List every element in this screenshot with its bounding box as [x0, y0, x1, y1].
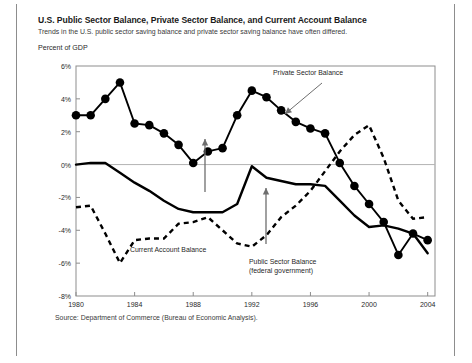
data-point-marker: [189, 159, 198, 168]
x-axis-tick-label: 2000: [361, 301, 377, 308]
data-point-marker: [174, 141, 183, 150]
data-point-marker: [394, 251, 403, 260]
annotation-public-sector-line2: (federal government): [249, 266, 316, 275]
data-point-marker: [335, 159, 344, 168]
private-sector-arrow: [285, 83, 322, 114]
source-note: Source: Department of Commerce (Bureau o…: [55, 314, 258, 321]
y-axis-tick-label: 4%: [61, 95, 71, 102]
annotation-public-sector-line1: Public Sector Balance: [249, 257, 316, 266]
y-axis-tick-label: -2%: [59, 194, 71, 201]
public-sector-arrow-head: [263, 188, 269, 195]
data-point-marker: [423, 236, 432, 245]
data-point-marker: [248, 86, 257, 95]
data-point-marker: [365, 200, 374, 209]
x-axis-tick-label: 1984: [127, 301, 143, 308]
series-solid-line: [76, 163, 428, 253]
y-axis-tick-label: 6%: [61, 63, 71, 70]
y-axis-tick-label: 0%: [61, 161, 71, 168]
annotation-public-sector: Public Sector Balance(federal government…: [249, 257, 316, 275]
data-point-marker: [130, 119, 139, 128]
data-point-marker: [350, 182, 359, 191]
data-point-marker: [306, 124, 315, 133]
y-axis-tick-label: -4%: [59, 227, 71, 234]
annotation-private-sector: Private Sector Balance: [273, 68, 343, 77]
annotation-current-account: Current Account Balance: [130, 245, 206, 254]
current-account-arrow-head: [202, 139, 208, 146]
data-point-marker: [116, 78, 125, 87]
data-point-marker: [233, 111, 242, 120]
chart-title: U.S. Public Sector Balance, Private Sect…: [38, 15, 367, 25]
data-point-marker: [277, 106, 286, 115]
data-point-marker: [101, 95, 110, 104]
data-point-marker: [262, 93, 271, 102]
series-dashed-line: [76, 125, 428, 263]
y-axis-tick-label: -6%: [59, 260, 71, 267]
x-axis-tick-label: 1992: [244, 301, 260, 308]
figure-frame: U.S. Public Sector Balance, Private Sect…: [16, 4, 455, 356]
x-axis-tick-label: 2004: [420, 301, 436, 308]
y-axis-unit-label: Percent of GDP: [38, 44, 88, 52]
x-axis-tick-label: 1988: [185, 301, 201, 308]
data-point-marker: [86, 111, 95, 120]
data-point-marker: [145, 121, 154, 130]
data-point-marker: [160, 129, 169, 138]
data-point-marker: [72, 111, 81, 120]
data-point-marker: [292, 118, 301, 127]
chart-subtitle: Trends in the U.S. public sector saving …: [38, 28, 347, 35]
x-axis-tick-label: 1980: [68, 301, 84, 308]
y-axis-tick-label: 2%: [61, 128, 71, 135]
data-point-marker: [321, 129, 330, 138]
current-account-line: [76, 163, 428, 253]
data-point-marker: [218, 144, 227, 153]
public-sector-line: [76, 125, 428, 263]
x-axis-tick-label: 1996: [303, 301, 319, 308]
y-axis-tick-label: -8%: [59, 293, 71, 300]
